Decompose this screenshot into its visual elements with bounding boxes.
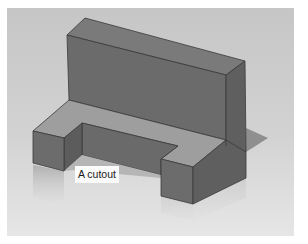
model-viewport: A cutout (7, 8, 294, 236)
cutout-callout-label: A cutout (75, 166, 119, 183)
wall-side-face (226, 61, 246, 152)
left-foot-reflection (33, 165, 64, 203)
bracket-model (7, 8, 294, 236)
right-foot-front-face (161, 159, 193, 204)
